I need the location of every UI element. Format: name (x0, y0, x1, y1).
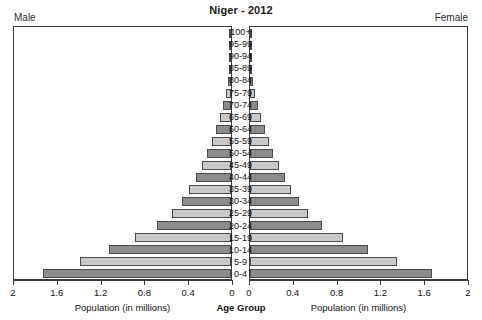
pyramid-row (250, 39, 467, 51)
age-group-axis: 0-45-910-1415-1920-2425-2930-3435-3940-4… (232, 26, 249, 280)
x-tick-mark (57, 280, 58, 285)
pyramid-row (250, 87, 467, 99)
female-bar-20-24 (250, 221, 322, 230)
x-tick-label: 2 (465, 287, 470, 298)
male-bar-40-44 (196, 173, 231, 182)
pyramid-row (250, 135, 467, 147)
x-tick-mark (424, 280, 425, 285)
age-group-label: 60-64 (232, 123, 249, 135)
age-group-label: 5-9 (232, 256, 249, 268)
age-group-label: 80-84 (232, 74, 249, 86)
age-group-label: 25-29 (232, 207, 249, 219)
female-bar-rows (250, 27, 467, 279)
pyramid-row (250, 255, 467, 267)
female-bar-0-4 (250, 269, 432, 278)
pyramid-row (14, 195, 231, 207)
male-x-tick-labels: 21.61.20.80.40 (13, 287, 232, 300)
pyramid-row (250, 183, 467, 195)
x-tick-label: 1.6 (418, 287, 431, 298)
male-bar-35-39 (189, 185, 231, 194)
pyramid-row (14, 99, 231, 111)
female-bar-5-9 (250, 257, 397, 266)
x-tick-mark (249, 280, 250, 285)
age-group-label: 95-99 (232, 38, 249, 50)
female-bar-10-14 (250, 245, 368, 254)
male-x-axis (13, 280, 232, 286)
x-tick-label: 0.8 (138, 287, 151, 298)
age-group-label: 10-14 (232, 244, 249, 256)
age-group-label: 40-44 (232, 171, 249, 183)
pyramid-row (250, 27, 467, 39)
pyramid-row (14, 27, 231, 39)
pyramid-row (250, 111, 467, 123)
pyramid-row (14, 255, 231, 267)
x-tick-label: 0 (246, 287, 251, 298)
female-bar-55-59 (250, 137, 269, 146)
age-group-label: 70-74 (232, 99, 249, 111)
pyramid-row (14, 39, 231, 51)
pyramid-row (250, 159, 467, 171)
male-axis-line (13, 280, 232, 281)
x-tick-label: 1.6 (50, 287, 63, 298)
female-bar-25-29 (250, 209, 308, 218)
x-tick-mark (13, 280, 14, 285)
male-bar-10-14 (109, 245, 231, 254)
x-tick-mark (293, 280, 294, 285)
x-tick-label: 0.8 (330, 287, 343, 298)
x-tick-label: 2 (10, 287, 15, 298)
pyramid-row (14, 219, 231, 231)
female-bar-30-34 (250, 197, 299, 206)
pyramid-row (250, 99, 467, 111)
pyramid-row (14, 183, 231, 195)
population-pyramid-chart: Niger - 2012 Male Female 0-45-910-1415-1… (0, 0, 482, 320)
x-tick-mark (337, 280, 338, 285)
pyramid-row (14, 171, 231, 183)
pyramid-row (250, 171, 467, 183)
age-group-label: 90-94 (232, 50, 249, 62)
pyramid-row (14, 243, 231, 255)
age-group-label: 15-19 (232, 232, 249, 244)
age-group-label: 20-24 (232, 220, 249, 232)
pyramid-row (250, 195, 467, 207)
male-bar-rows (14, 27, 231, 279)
pyramid-row (250, 207, 467, 219)
x-tick-label: 1.2 (374, 287, 387, 298)
pyramid-row (250, 219, 467, 231)
pyramid-row (250, 267, 467, 279)
x-tick-mark (232, 280, 233, 285)
pyramid-row (250, 231, 467, 243)
x-tick-mark (144, 280, 145, 285)
age-group-label: 65-69 (232, 111, 249, 123)
pyramid-row (250, 123, 467, 135)
pyramid-row (14, 135, 231, 147)
age-group-label: 100+ (232, 26, 249, 38)
female-side-label: Female (435, 12, 468, 23)
male-side-label: Male (14, 12, 36, 23)
age-group-label: 45-49 (232, 159, 249, 171)
age-group-label: 55-59 (232, 135, 249, 147)
pyramid-row (14, 111, 231, 123)
male-bar-20-24 (157, 221, 231, 230)
x-tick-label: 0.4 (286, 287, 299, 298)
age-group-label-list: 0-45-910-1415-1920-2425-2930-3435-3940-4… (232, 26, 249, 280)
age-group-label: 30-34 (232, 195, 249, 207)
x-tick-mark (188, 280, 189, 285)
age-group-label: 35-39 (232, 183, 249, 195)
female-bar-35-39 (250, 185, 291, 194)
pyramid-row (14, 231, 231, 243)
female-bar-15-19 (250, 233, 343, 242)
female-plot-panel (249, 26, 468, 280)
female-x-axis (249, 280, 468, 286)
pyramid-row (14, 87, 231, 99)
male-bar-0-4 (43, 269, 231, 278)
male-bar-25-29 (172, 209, 231, 218)
female-bar-40-44 (250, 173, 285, 182)
pyramid-row (250, 63, 467, 75)
age-group-label: 0-4 (232, 268, 249, 280)
pyramid-row (14, 147, 231, 159)
x-tick-mark (468, 280, 469, 285)
female-bar-45-49 (250, 161, 279, 170)
pyramid-row (250, 243, 467, 255)
female-axis-line (249, 280, 468, 281)
x-tick-label: 0 (229, 287, 234, 298)
